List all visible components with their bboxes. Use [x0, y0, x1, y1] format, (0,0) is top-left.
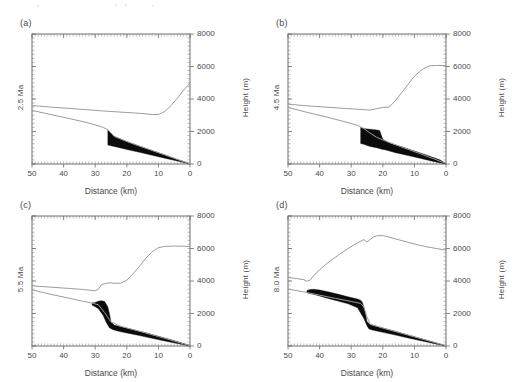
y-axis-title-d: Height (m): [497, 249, 506, 311]
y-axis-title-c: Height (m): [241, 249, 250, 311]
y-tick-label: 2000: [197, 127, 215, 136]
y-axis-title-a: Height (m): [241, 67, 250, 129]
panel-label-c: (c): [20, 200, 31, 210]
y-tick-label: 2000: [197, 309, 215, 318]
y-tick-label: 8000: [453, 211, 471, 220]
panel-b: (b)4.5 MaHeight (m)504030201000200040006…: [256, 18, 512, 200]
y-tick-label: 4000: [197, 276, 215, 285]
y-tick-label: 4000: [453, 94, 471, 103]
x-tick-label: 40: [311, 351, 329, 360]
y-tick-label: 6000: [197, 62, 215, 71]
x-tick-label: 0: [181, 169, 199, 178]
y-tick-label: 0: [453, 341, 457, 350]
x-tick-label: 50: [23, 169, 41, 178]
x-axis-title-c: Distance (km): [32, 368, 190, 378]
y-tick-label: 8000: [197, 211, 215, 220]
x-tick-label: 30: [86, 169, 104, 178]
y-tick-label: 4000: [197, 94, 215, 103]
x-tick-label: 10: [405, 351, 423, 360]
x-tick-label: 10: [149, 351, 167, 360]
thrust-wedge-d: [307, 289, 446, 346]
basement-line-c: [32, 290, 190, 346]
topography-line-c: [32, 246, 190, 291]
x-tick-label: 40: [311, 169, 329, 178]
x-tick-label: 20: [118, 351, 136, 360]
basement-line-d: [288, 289, 446, 346]
y-tick-label: 8000: [197, 29, 215, 38]
panel-a: (a)2.5 MaHeight (m)504030201000200040006…: [0, 18, 256, 200]
y-tick-label: 6000: [453, 244, 471, 253]
panel-label-b: (b): [276, 18, 288, 28]
x-tick-label: 30: [342, 169, 360, 178]
x-tick-label: 0: [181, 351, 199, 360]
x-tick-label: 50: [279, 169, 297, 178]
x-tick-label: 40: [55, 351, 73, 360]
x-tick-label: 0: [437, 169, 455, 178]
x-tick-label: 30: [342, 351, 360, 360]
thrust-wedge-c: [92, 301, 190, 346]
y-tick-label: 4000: [453, 276, 471, 285]
x-tick-label: 20: [374, 351, 392, 360]
panel-c: (c)5.5 MaHeight (m)504030201000200040006…: [0, 200, 256, 382]
x-axis-title-a: Distance (km): [32, 186, 190, 196]
x-tick-label: 50: [23, 351, 41, 360]
x-tick-label: 20: [374, 169, 392, 178]
age-label-b: 4.5 Ma: [272, 70, 281, 126]
x-tick-label: 50: [279, 351, 297, 360]
y-tick-label: 0: [197, 341, 201, 350]
x-axis-title-d: Distance (km): [288, 368, 446, 378]
panel-d: (d)8.0 MaHeight (m)504030201000200040006…: [256, 200, 512, 382]
y-tick-label: 6000: [453, 62, 471, 71]
x-tick-label: 40: [55, 169, 73, 178]
x-tick-label: 20: [118, 169, 136, 178]
topography-line-a: [32, 83, 190, 115]
age-label-c: 5.5 Ma: [16, 252, 25, 308]
y-tick-label: 0: [453, 159, 457, 168]
x-tick-label: 0: [437, 351, 455, 360]
x-tick-label: 10: [149, 169, 167, 178]
figure-panel-grid: (a)2.5 MaHeight (m)504030201000200040006…: [0, 0, 513, 382]
y-tick-label: 0: [197, 159, 201, 168]
x-axis-title-b: Distance (km): [288, 186, 446, 196]
age-label-d: 8.0 Ma: [272, 252, 281, 308]
y-tick-label: 6000: [197, 244, 215, 253]
scan-artifact: [8, 2, 248, 10]
panel-label-d: (d): [276, 200, 288, 210]
age-label-a: 2.5 Ma: [16, 70, 25, 126]
panel-label-a: (a): [20, 18, 32, 28]
x-tick-label: 30: [86, 351, 104, 360]
x-tick-label: 10: [405, 169, 423, 178]
topography-line-b: [288, 66, 446, 111]
y-axis-title-b: Height (m): [497, 67, 506, 129]
y-tick-label: 2000: [453, 127, 471, 136]
y-tick-label: 2000: [453, 309, 471, 318]
y-tick-label: 8000: [453, 29, 471, 38]
thrust-wedge-a: [108, 130, 190, 164]
topography-line-d: [288, 236, 446, 282]
